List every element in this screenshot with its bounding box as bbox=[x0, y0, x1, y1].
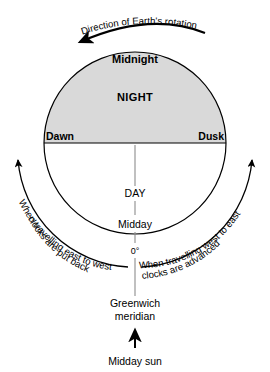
earth-rotation-diagram: Direction of Earth's rotation Midnight N… bbox=[0, 0, 270, 372]
rotation-arrow-group: Direction of Earth's rotation bbox=[80, 15, 205, 42]
midday-sun-group: Midday sun bbox=[108, 330, 162, 367]
diagram-canvas: Direction of Earth's rotation Midnight N… bbox=[0, 0, 270, 372]
rotation-label-text: Direction of Earth's rotation bbox=[80, 15, 199, 37]
dawn-label: Dawn bbox=[46, 130, 74, 142]
midday-label: Midday bbox=[118, 218, 153, 230]
midday-sun-label: Midday sun bbox=[108, 355, 162, 367]
greenwich-meridian-line1: Greenwich bbox=[110, 297, 160, 309]
midnight-label: Midnight bbox=[112, 53, 158, 65]
dusk-label: Dusk bbox=[198, 130, 224, 142]
rotation-label: Direction of Earth's rotation bbox=[80, 15, 199, 37]
travel-west-line2: clocks are put back bbox=[26, 214, 92, 274]
day-label: DAY bbox=[125, 187, 146, 199]
night-label: NIGHT bbox=[117, 91, 153, 103]
greenwich-meridian-line2: meridian bbox=[115, 310, 155, 322]
zero-degrees-label: 0° bbox=[131, 246, 140, 256]
travel-west-line2-text: clocks are put back bbox=[26, 214, 92, 274]
